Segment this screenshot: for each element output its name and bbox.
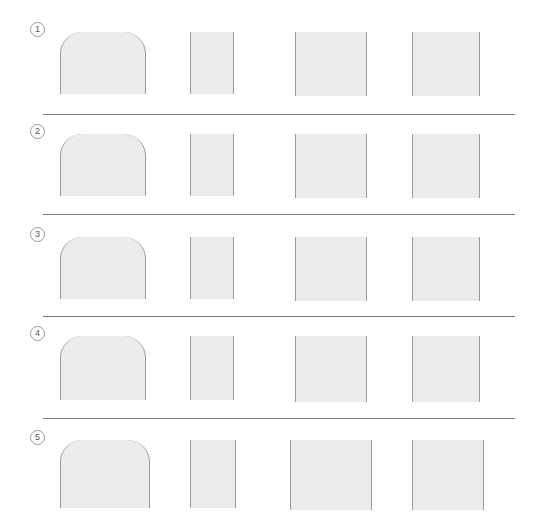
lower-body-a-panel — [295, 237, 367, 301]
lower-body-a-panel — [295, 32, 367, 96]
stage-badge: 4 — [30, 326, 45, 341]
stage-row-4: 4 — [0, 318, 536, 418]
front-torso-panel — [60, 134, 146, 196]
stage-row-3: 3 — [0, 215, 536, 315]
lower-body-a-panel — [295, 336, 367, 402]
front-torso-panel — [60, 32, 146, 94]
front-torso-panel — [60, 336, 146, 400]
side-torso-panel — [190, 134, 234, 196]
stage-badge: 1 — [30, 22, 45, 37]
stage-badge: 5 — [30, 430, 45, 445]
stage-badge: 3 — [30, 227, 45, 242]
side-torso-panel — [190, 440, 236, 508]
stage-row-1: 1 — [0, 10, 536, 110]
side-torso-panel — [190, 237, 234, 299]
side-torso-panel — [190, 32, 234, 94]
lower-body-a-panel — [295, 134, 367, 198]
stage-divider — [43, 316, 515, 317]
lower-body-b-panel — [412, 237, 480, 301]
front-torso-panel — [60, 440, 150, 508]
side-torso-panel — [190, 336, 234, 400]
stage-row-5: 5 — [0, 420, 536, 520]
lower-body-b-panel — [412, 336, 480, 402]
front-torso-panel — [60, 237, 146, 299]
stage-divider — [43, 418, 515, 419]
stage-row-2: 2 — [0, 112, 536, 212]
lower-body-b-panel — [412, 440, 484, 510]
lower-body-b-panel — [412, 134, 480, 198]
lower-body-b-panel — [412, 32, 480, 96]
lower-body-a-panel — [290, 440, 372, 510]
stage-badge: 2 — [30, 124, 45, 139]
